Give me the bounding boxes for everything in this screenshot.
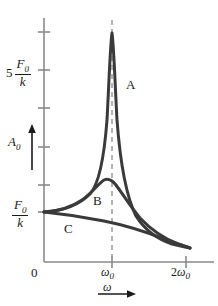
curve-label-c: C <box>64 222 73 235</box>
x-tick-label-2omega0: 2ω0 <box>171 266 190 281</box>
numerator-subscript: 0 <box>24 64 29 74</box>
amplitude-subscript: 0 <box>16 142 21 152</box>
y-tick-label-5f0-over-k: 5F0k <box>6 57 31 88</box>
fraction-denominator: k <box>15 75 31 88</box>
fraction-f0-over-k: F0k <box>12 198 28 229</box>
x-axis-caption: ω <box>103 281 111 293</box>
fraction-numerator: F0 <box>12 198 28 216</box>
y-tick-label-coefficient: 5 <box>6 66 15 79</box>
y-axis-amplitude-label: A0 <box>8 135 20 152</box>
numerator-subscript: 0 <box>22 205 27 215</box>
curve-label-a: A <box>126 78 135 91</box>
y-tick-label-f0-over-k: F0k <box>12 198 28 229</box>
x-axis-origin-label: 0 <box>31 266 38 279</box>
fraction-f0-over-k: F0k <box>15 57 31 88</box>
plot-canvas <box>0 0 218 306</box>
curve-label-b: B <box>93 194 102 207</box>
omega-subscript: 0 <box>185 271 190 281</box>
resonance-curve-figure: 5F0k F0k A0 0 ω0 2ω0 ω A B C <box>0 0 218 306</box>
fraction-numerator: F0 <box>15 57 31 75</box>
fraction-denominator: k <box>12 216 28 229</box>
amplitude-symbol: A <box>8 134 16 149</box>
amplitude-arrow-marker <box>28 124 36 170</box>
numerator-symbol: F <box>14 197 22 212</box>
